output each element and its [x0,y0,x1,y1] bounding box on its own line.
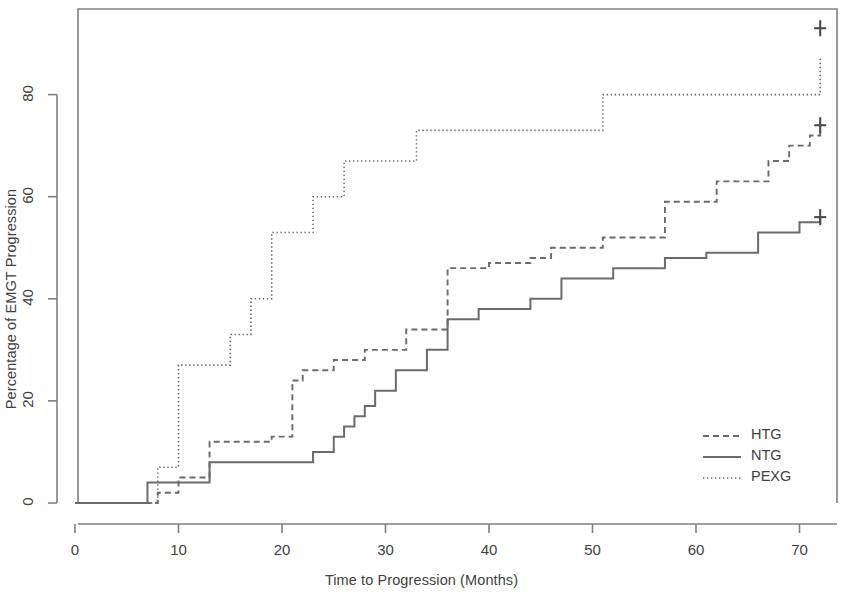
y-tick-label: 20 [19,382,36,416]
x-tick-label: 30 [366,541,406,558]
legend-label-pexg: PEXG [751,468,791,484]
y-tick-label: 40 [19,280,36,314]
y-tick-label: 80 [19,76,36,110]
censor-mark-htg [814,117,826,133]
x-tick-label: 20 [262,541,302,558]
series-line-ntg [75,217,820,503]
plot-canvas [0,0,843,598]
x-tick-label: 50 [573,541,613,558]
x-tick-label: 0 [55,541,95,558]
x-tick-label: 10 [159,541,199,558]
figure-container: Time to Progression (Months) Percentage … [0,0,843,598]
legend-label-ntg: NTG [751,447,782,463]
x-tick-label: 60 [676,541,716,558]
plot-frame [78,9,837,503]
legend-label-htg: HTG [751,426,782,442]
x-axis-title: Time to Progression (Months) [0,572,843,588]
x-tick-label: 70 [780,541,820,558]
y-tick-label: 60 [19,178,36,212]
y-tick-label: 0 [19,485,36,519]
x-tick-label: 40 [469,541,509,558]
series-line-htg [75,125,820,503]
censor-mark-pexg [814,20,826,36]
